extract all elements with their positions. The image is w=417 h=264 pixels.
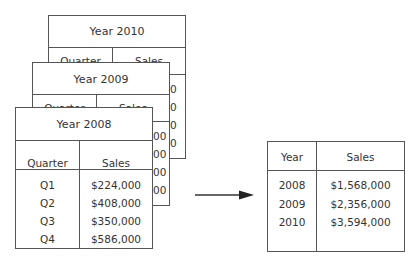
cell-quarter: Q3 [16,214,79,228]
cell-sales: $3,594,000 [317,215,404,229]
arrow-right-icon [193,189,257,201]
cell-sales: $350,000 [80,214,152,228]
column-header-year: Year [268,150,316,164]
divider [49,47,185,48]
peek-value: 0 [170,82,177,96]
column-header-sales: Sales [80,156,152,170]
column-header-quarter: Quarter [16,156,79,170]
peek-value: 00 [153,165,166,179]
cell-quarter: Q4 [16,232,79,246]
cell-sales: $586,000 [80,232,152,246]
cell-sales: $2,356,000 [317,197,404,211]
divider [33,94,169,95]
peek-value: 0 [170,100,177,114]
peek-value: 00 [153,147,166,161]
divider [268,170,404,171]
table-year-2008: Year 2008 Quarter Sales Q1 $224,000 Q2 $… [15,107,153,249]
peek-value: 00 [153,129,166,143]
cell-quarter: Q1 [16,178,79,192]
cell-sales: $224,000 [80,178,152,192]
divider [16,169,152,170]
column-header-sales: Sales [317,150,404,164]
table-summary: Year Sales 2008 $1,568,000 2009 $2,356,0… [267,141,405,252]
cell-year: 2010 [268,215,316,229]
peek-value: 0 [170,118,177,132]
peek-value: 00 [153,183,166,197]
cell-year: 2008 [268,178,316,192]
cell-sales: $408,000 [80,196,152,210]
cell-year: 2009 [268,197,316,211]
divider [16,140,152,141]
table-title: Year 2009 [33,73,169,87]
cell-sales: $1,568,000 [317,178,404,192]
table-title: Year 2008 [16,118,152,132]
table-title: Year 2010 [49,25,185,39]
cell-quarter: Q2 [16,196,79,210]
peek-value: 0 [170,136,177,150]
